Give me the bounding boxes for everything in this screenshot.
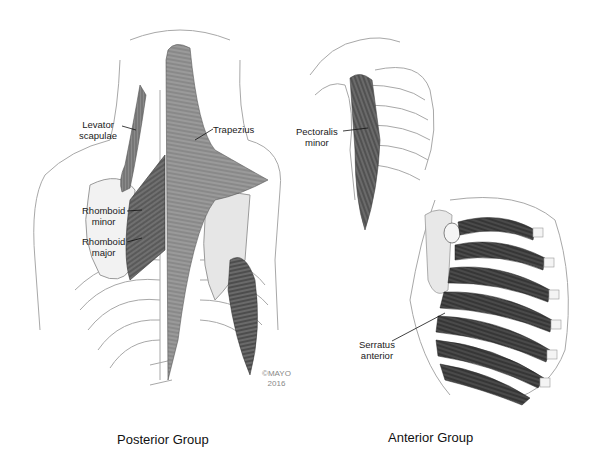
label-rhomboid-minor: Rhomboid minor bbox=[82, 205, 125, 227]
caption-posterior-group: Posterior Group bbox=[117, 432, 209, 447]
label-pectoralis-minor: Pectoralis minor bbox=[296, 126, 338, 148]
pectoralis-minor-muscle bbox=[350, 74, 380, 230]
copyright-line: ©MAYO bbox=[262, 369, 291, 379]
label-line: anterior bbox=[359, 350, 395, 361]
label-serratus-anterior: Serratus anterior bbox=[359, 339, 395, 361]
serratus-anterior-muscle bbox=[436, 218, 552, 406]
label-line: Rhomboid bbox=[82, 205, 125, 216]
label-line: scapulae bbox=[79, 130, 117, 141]
label-line: minor bbox=[296, 137, 338, 148]
label-line: Rhomboid bbox=[82, 236, 125, 247]
copyright-line: 2016 bbox=[262, 379, 291, 389]
label-line: Levator bbox=[79, 119, 117, 130]
label-line: Trapezius bbox=[213, 124, 254, 135]
label-line: minor bbox=[82, 216, 125, 227]
anatomy-illustration: Levator scapulae Trapezius Rhomboid mino… bbox=[0, 0, 599, 458]
label-trapezius: Trapezius bbox=[213, 124, 254, 135]
label-line: Serratus bbox=[359, 339, 395, 350]
anterior-group-drawing bbox=[0, 0, 599, 458]
label-line: major bbox=[82, 247, 125, 258]
label-line: Pectoralis bbox=[296, 126, 338, 137]
copyright-notice: ©MAYO 2016 bbox=[262, 369, 291, 389]
caption-anterior-group: Anterior Group bbox=[388, 430, 473, 445]
label-levator-scapulae: Levator scapulae bbox=[79, 119, 117, 141]
label-rhomboid-major: Rhomboid major bbox=[82, 236, 125, 258]
